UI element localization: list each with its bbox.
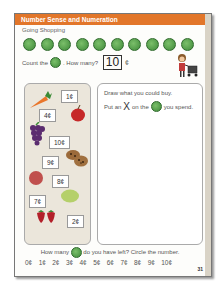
coin-icon <box>93 38 106 51</box>
choice-4[interactable]: 4¢ <box>80 259 87 266</box>
price-tag-cookies: 9¢ <box>42 156 59 169</box>
question-text-before: How many <box>41 249 69 255</box>
coin-row <box>23 38 194 51</box>
strawberries-icon <box>35 210 57 224</box>
section-header: Number Sense and Numeration <box>15 14 205 25</box>
cookies-icon <box>65 148 89 168</box>
coin-icon <box>23 38 36 51</box>
lemon-icon <box>59 188 81 204</box>
choice-10[interactable]: 10¢ <box>161 259 172 266</box>
coin-icon <box>41 38 54 51</box>
spend-text-c: you spend. <box>164 104 193 110</box>
spend-text-b: on the <box>132 104 149 110</box>
choice-0[interactable]: 0¢ <box>25 259 32 266</box>
choice-7[interactable]: 7¢ <box>120 259 127 266</box>
question-text-after: do you have left? Circle the number. <box>83 249 179 255</box>
choice-8[interactable]: 8¢ <box>134 259 141 266</box>
coin-icon <box>71 247 82 258</box>
drawing-area[interactable]: Draw what you could buy. Put an X on the… <box>97 83 203 245</box>
coin-icon <box>151 101 162 112</box>
coin-icon <box>76 38 89 51</box>
price-list-panel: 1¢ 4¢ 10¢ 9¢ 8¢ 7¢ <box>24 83 91 245</box>
price-tag-carrot: 1¢ <box>61 90 78 103</box>
coin-icon <box>111 38 124 51</box>
price-tag-strawberries: 2¢ <box>67 215 84 228</box>
apple-icon <box>70 104 86 122</box>
price-tag-lemon: 7¢ <box>29 195 46 208</box>
coin-icon <box>163 38 176 51</box>
activity-title: Going Shopping <box>22 27 65 33</box>
spend-text-a: Put an <box>104 104 121 110</box>
count-prompt-text-before: Count the <box>22 60 48 66</box>
page-number: 31 <box>197 266 203 272</box>
workbook-page: Number Sense and Numeration Going Shoppi… <box>14 13 212 277</box>
remaining-question: How many do you have left? Circle the nu… <box>15 247 205 258</box>
draw-instruction: Draw what you could buy. <box>104 90 172 96</box>
coin-icon <box>58 38 71 51</box>
x-mark: X <box>123 101 130 112</box>
choice-9[interactable]: 9¢ <box>148 259 155 266</box>
cent-symbol: ¢ <box>125 59 129 66</box>
count-prompt-text-after: . How many? <box>63 60 98 66</box>
carrot-icon <box>28 90 52 110</box>
spend-instruction: Put an X on the you spend. <box>104 101 193 112</box>
coin-icon <box>128 38 141 51</box>
coin-icon <box>146 38 159 51</box>
answer-box[interactable]: 10 <box>103 55 122 70</box>
coin-icon <box>181 38 194 51</box>
grapes-icon <box>28 122 46 146</box>
girl-with-cart-icon <box>173 52 201 80</box>
coin-icon <box>50 57 61 68</box>
choice-2[interactable]: 2¢ <box>52 259 59 266</box>
price-tag-plum: 8¢ <box>52 175 69 188</box>
price-tag-apple: 4¢ <box>39 109 56 122</box>
choice-5[interactable]: 5¢ <box>93 259 100 266</box>
choice-1[interactable]: 1¢ <box>39 259 46 266</box>
choice-6[interactable]: 6¢ <box>107 259 114 266</box>
choice-3[interactable]: 3¢ <box>66 259 73 266</box>
page-edge-bar <box>205 14 211 276</box>
answer-choices: 0¢ 1¢ 2¢ 3¢ 4¢ 5¢ 6¢ 7¢ 8¢ 9¢ 10¢ <box>25 259 172 266</box>
count-prompt: Count the . How many? 10 ¢ <box>22 55 129 70</box>
plum-icon <box>28 170 44 186</box>
